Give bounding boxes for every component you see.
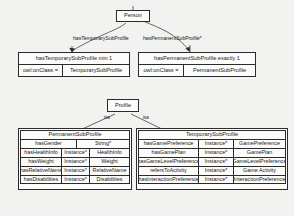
temporary-row-0-range: GamePreference xyxy=(234,140,285,148)
restriction-temporary-key: owl:onClass = xyxy=(19,65,63,76)
temporary-row-1-instance: Instance* xyxy=(199,149,234,157)
permanent-row-3-property: hasRelativeName xyxy=(21,167,62,175)
permanent-row-4-property: hasDisabilities xyxy=(21,176,62,183)
table-row[interactable]: hasGamePreference Instance* GamePreferen… xyxy=(138,139,286,148)
edge-label-has-permanent-sub-profile: hasPermanentSubProfile* xyxy=(143,36,202,41)
diagram-canvas: Person hasTemporarySubProfile hasPermane… xyxy=(0,0,294,216)
table-row[interactable]: hasWeight Instance* Weight xyxy=(20,157,130,166)
permanent-row-1-property: hasHealthInfo xyxy=(21,149,62,157)
temporary-row-4-range: InteractionPreference xyxy=(234,176,285,183)
table-row[interactable]: hasGamePlan Instance* GamePlan xyxy=(138,148,286,157)
table-row[interactable]: hasHealthInfo Instance* HealthInfo xyxy=(20,148,130,157)
permanent-row-1-instance: Instance* xyxy=(62,149,90,157)
isa-label-right: isa xyxy=(143,116,149,121)
permanent-row-2-property: hasWeight xyxy=(21,158,62,166)
table-row[interactable]: hasRelativeName Instance* RelativeName xyxy=(20,166,130,175)
permanent-table-header: PermanentSubProfile xyxy=(20,130,130,139)
permanent-row-3-instance: Instance* xyxy=(62,167,90,175)
class-node-person-label: Person xyxy=(124,13,142,19)
temporary-table-header: TemporarySubProfile xyxy=(138,130,286,139)
class-node-profile-label: Profile xyxy=(115,103,131,109)
temporary-row-0-property: hasGamePreference xyxy=(139,140,199,148)
table-row[interactable]: hasGender String* xyxy=(20,139,130,148)
class-node-person[interactable]: Person xyxy=(116,10,150,22)
temporary-row-1-range: GamePlan xyxy=(234,149,285,157)
edge-label-has-temporary-sub-profile: hasTemporarySubProfile xyxy=(73,36,129,41)
restriction-temporary-value: TemporarySubProfile xyxy=(63,65,129,76)
restriction-permanent-key: owl:onClass = xyxy=(139,65,184,76)
table-row[interactable]: refersToActivity Instance* Game Activity xyxy=(138,166,286,175)
restriction-temporary-header: hasTemporarySubProfile min 1 xyxy=(19,53,129,65)
temporary-row-3-range: Game Activity xyxy=(234,167,285,175)
class-table-permanent-sub-profile[interactable]: PermanentSubProfile hasGender String* ha… xyxy=(18,128,132,190)
table-row[interactable]: hasDisabilities Instance* Disabilities xyxy=(20,175,130,184)
isa-label-left: isa xyxy=(104,116,110,121)
class-table-temporary-sub-profile[interactable]: TemporarySubProfile hasGamePreference In… xyxy=(136,128,288,190)
permanent-row-0-property: hasGender xyxy=(21,140,77,148)
restriction-permanent-value: PermanentSubProfile xyxy=(184,65,255,76)
permanent-row-2-range: Weight xyxy=(90,158,129,166)
restriction-permanent-header: hasPermanentSubProfile exactly 1 xyxy=(139,53,255,65)
temporary-row-4-property: hasInteractionPreference xyxy=(139,176,199,183)
permanent-row-1-range: HealthInfo xyxy=(90,149,129,157)
permanent-row-3-range: RelativeName xyxy=(90,167,129,175)
temporary-row-3-instance: Instance* xyxy=(199,167,234,175)
class-node-profile[interactable]: Profile xyxy=(107,99,139,112)
table-row[interactable]: hasInteractionPreference Instance* Inter… xyxy=(138,175,286,184)
table-row[interactable]: hasGameLevelPreference Instance* GameLev… xyxy=(138,157,286,166)
permanent-row-4-range: Disabilities xyxy=(90,176,129,183)
permanent-row-2-instance: Instance* xyxy=(62,158,90,166)
temporary-row-1-property: hasGamePlan xyxy=(139,149,199,157)
temporary-row-0-instance: Instance* xyxy=(199,140,234,148)
temporary-row-4-instance: Instance* xyxy=(199,176,234,183)
temporary-row-3-property: refersToActivity xyxy=(139,167,199,175)
permanent-row-0-range: String* xyxy=(77,140,129,148)
temporary-row-2-instance: Instance* xyxy=(199,158,234,166)
temporary-row-2-property: hasGameLevelPreference xyxy=(139,158,199,166)
restriction-node-temporary[interactable]: hasTemporarySubProfile min 1 owl:onClass… xyxy=(18,52,130,77)
temporary-row-2-range: GameLevelPreference xyxy=(234,158,285,166)
permanent-row-4-instance: Instance* xyxy=(62,176,90,183)
restriction-node-permanent[interactable]: hasPermanentSubProfile exactly 1 owl:onC… xyxy=(138,52,256,77)
